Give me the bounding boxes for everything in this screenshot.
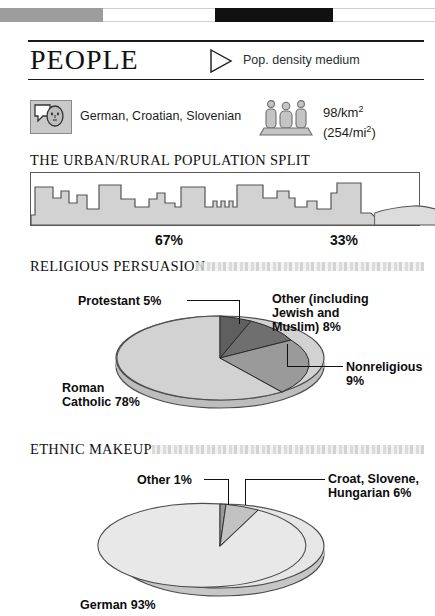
ethnic-heading: ETHNIC MAKEUP (30, 441, 152, 458)
leader-line-nonreligious-vertical (287, 344, 288, 366)
header-rule-top (28, 40, 424, 42)
religion-label-protestant: Protestant 5% (78, 294, 161, 308)
rural-percentage-label: 33% (330, 232, 358, 248)
religion-label-nonreligious-line1: Nonreligious (346, 360, 422, 374)
density-imperial: (254/mi (323, 126, 366, 141)
topbar-segment-white-right (333, 8, 435, 22)
ethnic-label-german: German 93% (80, 598, 156, 612)
topbar-segment-black (215, 8, 333, 22)
leader-line-ethnic-other-vertical (228, 479, 229, 505)
urban-rural-silhouette (31, 173, 419, 225)
topbar-segment-white-left (103, 8, 215, 22)
languages-text: German, Croatian, Slovenian (80, 109, 241, 123)
ethnic-pie-chart (110, 488, 330, 608)
religion-label-catholic-line2: Catholic 78% (62, 395, 140, 409)
religion-label-other-line3: Muslim) 8% (272, 320, 341, 334)
ethnic-label-croat-line2: Hungarian 6% (328, 486, 411, 500)
religion-heading-smudge (196, 262, 424, 271)
leader-line-protestant (187, 300, 239, 301)
leader-line-croat-vertical (245, 479, 246, 505)
speech-face-icon (30, 100, 72, 134)
religion-label-other: Other (including Jewish and Muslim) 8% (272, 292, 422, 334)
religion-heading: RELIGIOUS PERSUASION (30, 258, 206, 275)
leader-line-croat (245, 479, 325, 480)
urban-rural-chart (30, 172, 420, 226)
religion-label-catholic-line1: Roman (62, 381, 104, 395)
density-imperial-close: ) (371, 126, 375, 141)
urban-percentage-label: 67% (155, 232, 183, 248)
page-title: PEOPLE (30, 44, 139, 76)
three-people-icon (258, 98, 314, 138)
leader-line-ethnic-other (204, 479, 228, 480)
ethnic-label-croat-line1: Croat, Slovene, (328, 472, 419, 486)
religion-label-other-line2: Jewish and (272, 306, 339, 320)
leader-line-protestant-vertical (239, 300, 240, 324)
leader-line-nonreligious (287, 366, 343, 367)
urban-rural-heading: THE URBAN/RURAL POPULATION SPLIT (30, 152, 310, 169)
religion-label-nonreligious: Nonreligious 9% (346, 360, 422, 388)
density-metric: 98/km (323, 105, 358, 120)
topbar-segment-gray (0, 8, 103, 22)
ethnic-heading-smudge (152, 445, 424, 454)
density-caption: Pop. density medium (243, 53, 360, 67)
top-decorative-bar (0, 8, 435, 22)
religion-label-catholic: Roman Catholic 78% (62, 381, 140, 409)
density-metric-exponent: 2 (358, 104, 363, 114)
population-density-value: 98/km2 (254/mi2) (323, 101, 376, 142)
header-rule-bottom (28, 79, 424, 80)
religion-label-other-line1: Other (including (272, 292, 369, 306)
ethnic-label-other: Other 1% (137, 473, 192, 487)
triangle-right-icon (208, 48, 234, 74)
ethnic-label-croat: Croat, Slovene, Hungarian 6% (328, 472, 419, 500)
religion-label-nonreligious-line2: 9% (346, 374, 364, 388)
